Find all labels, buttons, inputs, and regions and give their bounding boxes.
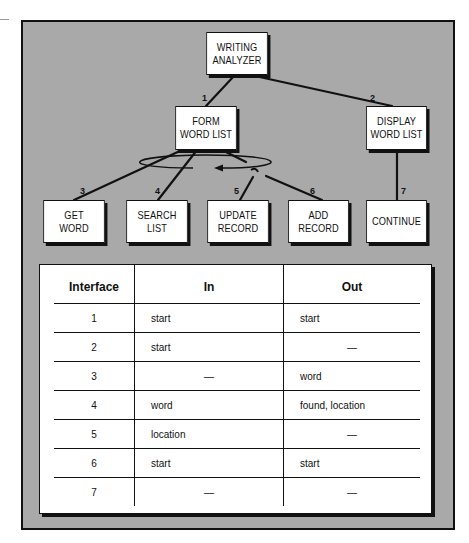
interface-label-3: 3 — [80, 186, 85, 196]
table-header-row: Interface In Out — [54, 265, 420, 304]
connector-5 — [240, 177, 253, 200]
cell-in: start — [134, 333, 283, 361]
interface-label-4: 4 — [155, 186, 160, 196]
interface-table: Interface In Out 1 start start 2 start —… — [54, 265, 420, 506]
cell-in: start — [134, 304, 283, 332]
cell-interface: 7 — [54, 478, 134, 506]
node-label: DISPLAY WORD LIST — [370, 115, 422, 141]
cell-out: word — [283, 362, 420, 390]
interface-label-5: 5 — [234, 186, 239, 196]
node-update-record: UPDATE RECORD — [207, 200, 269, 243]
node-label: GET WORD — [59, 209, 89, 235]
cell-out: — — [283, 420, 420, 448]
loop-arrowhead-icon — [214, 165, 223, 172]
selection-hook-icon — [251, 169, 258, 172]
cell-interface: 3 — [54, 362, 134, 390]
node-form-word-list: FORM WORD LIST — [175, 106, 237, 150]
node-continue: CONTINUE — [366, 200, 427, 243]
table-row: 5 location — — [54, 420, 420, 449]
interface-table-box: Interface In Out 1 start start 2 start —… — [39, 264, 432, 514]
connector-1 — [206, 76, 234, 106]
cell-in: location — [134, 420, 283, 448]
cell-in: — — [134, 478, 283, 506]
cell-out: — — [283, 478, 420, 506]
cell-out: found, location — [283, 391, 420, 419]
table-row: 7 — — — [54, 478, 420, 506]
header-interface: Interface — [54, 265, 134, 303]
node-label: CONTINUE — [372, 215, 421, 228]
node-get-word: GET WORD — [43, 200, 105, 243]
table-row: 2 start — — [54, 333, 420, 362]
connector-3 — [74, 150, 182, 200]
node-add-record: ADD RECORD — [288, 200, 349, 243]
cell-interface: 6 — [54, 449, 134, 477]
cell-interface: 2 — [54, 333, 134, 361]
node-label: FORM WORD LIST — [180, 115, 232, 141]
header-out: Out — [283, 265, 420, 303]
interface-label-6: 6 — [310, 186, 315, 196]
table-row: 3 — word — [54, 362, 420, 391]
table-row: 1 start start — [54, 304, 420, 333]
cell-in: — — [134, 362, 283, 390]
cell-interface: 1 — [54, 304, 134, 332]
node-display-word-list: DISPLAY WORD LIST — [366, 106, 427, 150]
cell-out: start — [283, 449, 420, 477]
node-label: ADD RECORD — [298, 209, 339, 235]
interface-label-2: 2 — [370, 93, 375, 103]
node-label: SEARCH LIST — [137, 209, 176, 235]
header-in: In — [134, 265, 283, 303]
node-label: WRITING ANALYZER — [213, 41, 262, 67]
cell-in: start — [134, 449, 283, 477]
interface-label-7: 7 — [401, 186, 406, 196]
table-row: 4 word found, location — [54, 391, 420, 420]
node-label: UPDATE RECORD — [218, 209, 259, 235]
table-row: 6 start start — [54, 449, 420, 478]
cell-out: start — [283, 304, 420, 332]
interface-label-1: 1 — [202, 93, 207, 103]
cell-interface: 5 — [54, 420, 134, 448]
node-search-list: SEARCH LIST — [126, 200, 188, 243]
cell-in: word — [134, 391, 283, 419]
cell-out: — — [283, 333, 420, 361]
node-writing-analyzer: WRITING ANALYZER — [206, 32, 268, 75]
cell-interface: 4 — [54, 391, 134, 419]
